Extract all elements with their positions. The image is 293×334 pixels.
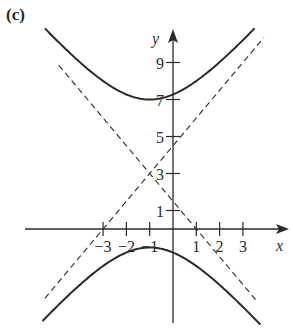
y-tick-label: 9 [156, 55, 164, 72]
x-tick-label: 1 [192, 238, 200, 255]
upper-branch-curve [45, 28, 255, 99]
asymptotes [45, 38, 264, 302]
x-tick-label: −1 [141, 238, 158, 255]
x-tick-label: −2 [118, 238, 135, 255]
x-tick-label: 2 [216, 238, 224, 255]
x-ticks: −3−2−1123 [95, 222, 247, 255]
x-tick-label: 3 [239, 238, 247, 255]
y-ticks: 13579 [156, 55, 180, 220]
x-axis-label: x [275, 237, 283, 254]
y-axis-label: y [150, 30, 160, 48]
asymptote-line [45, 38, 264, 299]
x-tick-label: −3 [95, 238, 112, 255]
hyperbola-figure: (c) x y −3−2−1123 13579 [0, 0, 293, 334]
y-tick-label: 7 [156, 92, 164, 109]
y-tick-label: 3 [156, 166, 164, 183]
panel-label: (c) [6, 5, 25, 24]
hyperbola-branches [43, 28, 261, 324]
y-tick-label: 1 [156, 203, 164, 220]
hyperbola-plot: (c) x y −3−2−1123 13579 [0, 0, 293, 334]
y-tick-label: 5 [156, 129, 164, 146]
lower-branch-curve [43, 248, 261, 325]
